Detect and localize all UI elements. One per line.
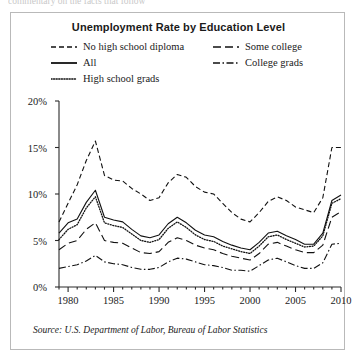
legend-item-label: All [83, 57, 96, 68]
x-axis-tick-label: 1980 [58, 295, 79, 306]
series-line-college-grads [59, 243, 341, 271]
legend-line-swatch [213, 42, 239, 52]
chart-plot-svg [11, 91, 346, 326]
x-axis-tick-label: 1990 [149, 295, 170, 306]
x-axis-tick-label: 2010 [331, 295, 352, 306]
legend-line-swatch [213, 58, 239, 68]
series-line-some-college [59, 212, 341, 260]
legend-item-label: High school grads [83, 73, 159, 84]
legend-item: College grads [213, 57, 303, 68]
legend-item: High school grads [51, 73, 159, 84]
legend-item: Some college [213, 41, 302, 52]
legend-item-label: No high school diploma [83, 41, 184, 52]
series-line-no-high-school-diploma [59, 141, 341, 222]
legend-line-swatch [51, 74, 77, 84]
chart-figure-box: Unemployment Rate by Education Level No … [10, 12, 345, 350]
legend-line-swatch [51, 42, 77, 52]
x-axis-labels: 1980198519901995200020052010 [11, 295, 346, 315]
series-line-all [59, 190, 341, 250]
legend-item-label: Some college [245, 41, 302, 52]
legend-item-label: College grads [245, 57, 303, 68]
chart-legend: No high school diplomaAllHigh school gra… [51, 41, 341, 89]
legend-item: All [51, 57, 96, 68]
series-line-high-school-grads [59, 197, 341, 254]
figure-container: commentary on the facts that follow Unem… [0, 0, 357, 360]
x-axis-tick-label: 1985 [103, 295, 124, 306]
legend-line-swatch [51, 58, 77, 68]
legend-item: No high school diploma [51, 41, 184, 52]
x-axis-tick-label: 1995 [194, 295, 215, 306]
cropped-text-fragment: commentary on the facts that follow [8, 0, 248, 6]
plot-area: 0%5%10%15%20% 19801985199019952000200520… [11, 91, 346, 326]
x-axis-tick-label: 2000 [240, 295, 261, 306]
source-note: Source: U.S. Department of Labor, Bureau… [33, 325, 343, 335]
x-axis-tick-label: 2005 [285, 295, 306, 306]
chart-title: Unemployment Rate by Education Level [11, 21, 346, 33]
